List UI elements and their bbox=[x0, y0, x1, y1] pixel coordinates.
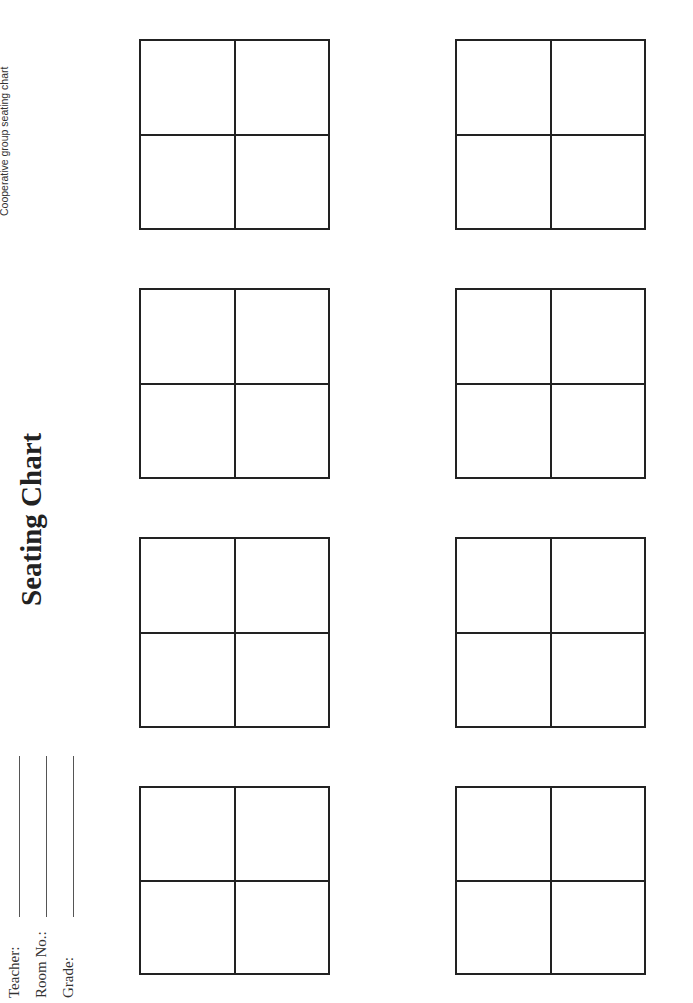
seat[interactable] bbox=[235, 633, 329, 727]
group-table-8 bbox=[455, 786, 646, 975]
seat[interactable] bbox=[457, 788, 551, 881]
seat[interactable] bbox=[457, 881, 551, 974]
teacher-field[interactable] bbox=[19, 756, 20, 917]
group-table-4 bbox=[139, 786, 330, 975]
group-table-7 bbox=[455, 537, 646, 728]
seat[interactable] bbox=[551, 633, 645, 727]
seat[interactable] bbox=[235, 41, 329, 135]
seat[interactable] bbox=[457, 41, 551, 135]
seat[interactable] bbox=[235, 881, 329, 974]
teacher-label: Teacher: bbox=[6, 947, 22, 998]
group-table-5 bbox=[455, 39, 646, 230]
grade-field[interactable] bbox=[73, 756, 74, 917]
seat[interactable] bbox=[141, 290, 235, 384]
seat[interactable] bbox=[235, 788, 329, 881]
room-number-field[interactable] bbox=[46, 756, 47, 917]
seat[interactable] bbox=[235, 290, 329, 384]
group-table-3 bbox=[139, 537, 330, 728]
group-table-6 bbox=[455, 288, 646, 479]
seat[interactable] bbox=[551, 135, 645, 229]
seat[interactable] bbox=[551, 41, 645, 135]
seat[interactable] bbox=[141, 881, 235, 974]
seat[interactable] bbox=[551, 539, 645, 633]
seat[interactable] bbox=[235, 539, 329, 633]
group-table-2 bbox=[139, 288, 330, 479]
page-title: Seating Chart bbox=[15, 433, 47, 606]
seat[interactable] bbox=[551, 881, 645, 974]
seat[interactable] bbox=[457, 135, 551, 229]
seat[interactable] bbox=[457, 633, 551, 727]
header-note: Cooperative group seating chart bbox=[0, 67, 10, 216]
seat[interactable] bbox=[457, 539, 551, 633]
seat[interactable] bbox=[235, 384, 329, 478]
grade-label: Grade: bbox=[60, 957, 76, 998]
seat[interactable] bbox=[551, 788, 645, 881]
seat[interactable] bbox=[141, 41, 235, 135]
seat[interactable] bbox=[141, 135, 235, 229]
seat[interactable] bbox=[551, 384, 645, 478]
seat[interactable] bbox=[141, 384, 235, 478]
room-number-label: Room No.: bbox=[33, 931, 49, 998]
seat[interactable] bbox=[141, 788, 235, 881]
group-table-1 bbox=[139, 39, 330, 230]
seat[interactable] bbox=[457, 384, 551, 478]
seat[interactable] bbox=[141, 633, 235, 727]
seat[interactable] bbox=[235, 135, 329, 229]
seat[interactable] bbox=[141, 539, 235, 633]
seat[interactable] bbox=[457, 290, 551, 384]
seat[interactable] bbox=[551, 290, 645, 384]
